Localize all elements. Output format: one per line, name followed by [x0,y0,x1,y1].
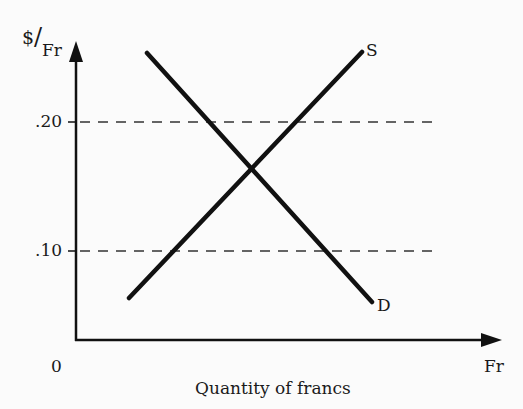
demand-curve [147,53,372,302]
chart-canvas: $ / Fr .20 .10 0 Fr S D Quantity of fran… [0,0,523,409]
demand-label: D [377,297,391,314]
y-axis-label-dollar: $ [22,28,34,47]
y-axis-arrow-icon [69,41,83,62]
x-axis-end-label: Fr [484,358,504,375]
x-axis-title: Quantity of francs [195,380,351,397]
y-tick-label-20: .20 [35,113,62,130]
y-axis-label-fr: Fr [42,42,62,59]
supply-label: S [366,42,378,59]
supply-curve [129,52,362,298]
y-tick-label-10: .10 [35,242,62,259]
origin-label: 0 [51,358,62,375]
chart-svg [0,0,523,409]
y-axis-label-slash: / [34,25,42,49]
x-axis-arrow-icon [481,333,502,347]
